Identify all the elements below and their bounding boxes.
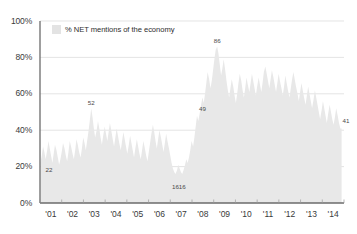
- data-label: 41: [338, 117, 354, 124]
- data-label: 22: [41, 166, 57, 173]
- data-label: 16: [174, 183, 190, 190]
- data-label: 52: [83, 99, 99, 106]
- legend-label-economy: % NET mentions of the economy: [65, 25, 174, 34]
- x-axis-label: '06: [148, 209, 170, 219]
- data-label: 49: [194, 105, 210, 112]
- x-axis-label: '09: [214, 209, 236, 219]
- area-series-economy: [40, 46, 341, 203]
- x-axis-label: '10: [235, 209, 257, 219]
- x-axis-label: '03: [83, 209, 105, 219]
- x-axis-label: '12: [279, 209, 301, 219]
- y-axis-label: 80%: [2, 52, 32, 62]
- x-axis-label: '14: [322, 209, 344, 219]
- chart-legend: % NET mentions of the economy: [52, 25, 174, 34]
- x-axis-label: '01: [40, 209, 62, 219]
- chart-container: 100%80%60%40%20%0% '01'02'03'04'05'06'07…: [0, 0, 357, 234]
- y-axis-label: 60%: [2, 88, 32, 98]
- y-axis-label: 100%: [2, 16, 32, 26]
- legend-swatch-economy: [52, 25, 61, 34]
- y-axis-label: 20%: [2, 161, 32, 171]
- chart-plot-area: [0, 0, 357, 234]
- y-axis-label: 40%: [2, 125, 32, 135]
- x-axis-label: '05: [127, 209, 149, 219]
- x-axis-label: '13: [300, 209, 322, 219]
- y-axis-label: 0%: [2, 198, 32, 208]
- x-axis-label: '02: [62, 209, 84, 219]
- x-axis-label: '08: [192, 209, 214, 219]
- x-axis-label: '07: [170, 209, 192, 219]
- x-axis-label: '11: [257, 209, 279, 219]
- data-label: 86: [209, 37, 225, 44]
- x-axis-label: '04: [105, 209, 127, 219]
